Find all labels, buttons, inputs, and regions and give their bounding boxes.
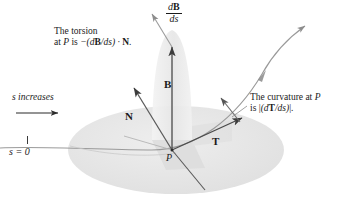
torsion-is: is bbox=[69, 37, 80, 47]
torsion-expr-2: /ds) · bbox=[101, 37, 122, 47]
curvature-point-p: P bbox=[315, 92, 321, 102]
curvature-expr-2: /ds) bbox=[275, 103, 289, 113]
vector-label-N: N bbox=[125, 110, 133, 122]
torsion-period: . bbox=[129, 37, 131, 47]
curvature-expr-1: (d bbox=[261, 103, 269, 113]
curvature-annotation: The curvature at P is |(dT/ds)|. bbox=[250, 92, 320, 113]
vector-label-T: T bbox=[212, 135, 219, 147]
curvature-line-1: The curvature at P bbox=[250, 92, 320, 103]
s-equals-zero-value: = 0 bbox=[13, 146, 30, 157]
s-zero-tick bbox=[27, 136, 28, 144]
vector-label-B: B bbox=[164, 78, 171, 90]
dB-ds-fraction: dB ds bbox=[166, 2, 182, 24]
torsion-line-2: at P is −(dB/ds) · N. bbox=[54, 37, 131, 48]
torsion-annotation: The torsion at P is −(dB/ds) · N. bbox=[54, 26, 131, 47]
torsion-expr-1: −(d bbox=[80, 37, 94, 47]
curvature-is: is bbox=[250, 103, 259, 113]
torsion-line-1: The torsion bbox=[54, 26, 131, 37]
dB-ds-vector-b: B bbox=[173, 1, 180, 12]
dB-ds-numerator: dB bbox=[166, 2, 182, 13]
curvature-period: . bbox=[291, 103, 293, 113]
torsion-at: at bbox=[54, 37, 63, 47]
curvature-line-2: is |(dT/ds)|. bbox=[250, 103, 320, 114]
dB-ds-label: dB ds bbox=[166, 2, 182, 24]
s-increases-label: s increases bbox=[12, 92, 54, 103]
point-label-P: P bbox=[166, 152, 172, 163]
dB-ds-denominator: ds bbox=[166, 13, 182, 25]
s-equals-zero-label: s = 0 bbox=[9, 146, 30, 157]
curvature-pre: The curvature at bbox=[250, 92, 315, 102]
